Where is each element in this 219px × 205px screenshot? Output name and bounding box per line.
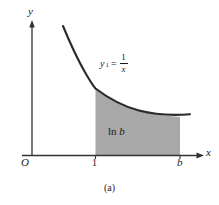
y-axis-label: y: [28, 6, 33, 17]
plot-canvas: [0, 0, 219, 205]
curve-equation-fraction: 1x: [120, 53, 128, 74]
x-axis-label: x: [206, 147, 211, 158]
shaded-area-label: ln b: [108, 126, 125, 137]
shaded-area-label-variable: b: [119, 125, 125, 137]
curve-equation-label: y1=1x: [100, 53, 128, 74]
x-tick-label-1: 1: [92, 158, 97, 168]
x-axis-arrowhead: [197, 153, 205, 159]
curve-equation-subscript: 1: [105, 62, 109, 69]
shaded-area-label-prefix: ln: [108, 125, 119, 137]
curve-equation-denominator: x: [122, 65, 126, 74]
figure-caption: (a): [0, 182, 219, 193]
origin-label: O: [21, 157, 29, 168]
figure-container: y x O 1 b ln b y1=1x (a): [0, 0, 219, 205]
shaded-area-under-curve: [96, 89, 181, 156]
curve-equation-equals: =: [109, 59, 120, 69]
curve-equation-numerator: 1: [121, 53, 126, 62]
x-tick-label-b: b: [177, 157, 183, 168]
y-axis-arrowhead: [29, 20, 35, 28]
